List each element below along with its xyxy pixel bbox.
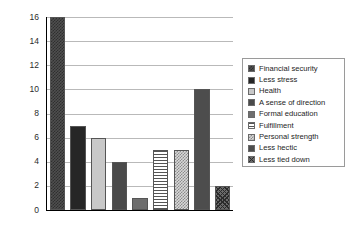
bar-fulfillment[interactable] xyxy=(153,150,169,210)
gridline xyxy=(47,65,233,66)
y-axis-tick-label: 10 xyxy=(30,85,39,94)
y-axis-tick-label: 4 xyxy=(34,157,39,166)
legend-item[interactable]: A sense of direction xyxy=(248,97,340,108)
legend-item-label: Less hectic xyxy=(259,144,297,152)
y-axis-tick-label: 0 xyxy=(34,206,39,215)
legend-item-label: A sense of direction xyxy=(259,99,325,107)
legend-swatch-icon xyxy=(248,134,255,141)
y-axis-tick-label: 14 xyxy=(30,37,39,46)
bar-chart: 0246810121416 Financial securityLess str… xyxy=(0,0,360,234)
y-axis-tick-label: 6 xyxy=(34,133,39,142)
legend-item[interactable]: Financial security xyxy=(248,63,340,74)
legend-item[interactable]: Less stress xyxy=(248,74,340,85)
legend-item[interactable]: Fulfillment xyxy=(248,120,340,131)
legend-item[interactable]: Health xyxy=(248,86,340,97)
legend-swatch-icon xyxy=(248,65,255,72)
legend-swatch-icon xyxy=(248,122,255,129)
legend-item-label: Fulfillment xyxy=(259,122,294,130)
bar-formal-education[interactable] xyxy=(132,198,148,210)
y-axis-tick-label: 2 xyxy=(34,181,39,190)
legend-item-label: Formal education xyxy=(259,110,318,118)
legend-item-label: Less stress xyxy=(259,76,297,84)
y-axis-tick-label: 8 xyxy=(34,109,39,118)
bar-less-tied-down[interactable] xyxy=(215,186,231,210)
legend-item[interactable]: Personal strength xyxy=(248,131,340,142)
y-axis-tick-label: 16 xyxy=(30,13,39,22)
legend-item-label: Health xyxy=(259,87,281,95)
legend-item[interactable]: Formal education xyxy=(248,109,340,120)
legend-swatch-icon xyxy=(248,99,255,106)
bar-a-sense-of-direction[interactable] xyxy=(112,162,128,210)
legend-item[interactable]: Less hectic xyxy=(248,143,340,154)
legend-item[interactable]: Less tied down xyxy=(248,154,340,165)
legend-item-label: Less tied down xyxy=(259,156,310,164)
gridline xyxy=(47,17,233,18)
legend-swatch-icon xyxy=(248,145,255,152)
bar-less-hectic[interactable] xyxy=(194,89,210,210)
bar-less-stress[interactable] xyxy=(70,126,86,210)
legend-swatch-icon xyxy=(248,111,255,118)
y-axis-tick-label: 12 xyxy=(30,61,39,70)
bar-financial-security[interactable] xyxy=(50,17,66,210)
legend-swatch-icon xyxy=(248,88,255,95)
y-axis-tick-labels: 0246810121416 xyxy=(0,0,44,234)
bar-health[interactable] xyxy=(91,138,107,210)
bar-personal-strength[interactable] xyxy=(174,150,190,210)
gridline xyxy=(47,41,233,42)
legend-item-label: Financial security xyxy=(259,65,318,73)
plot-area xyxy=(46,17,233,211)
legend-swatch-icon xyxy=(248,77,255,84)
legend-item-label: Personal strength xyxy=(259,133,319,141)
legend-swatch-icon xyxy=(248,156,255,163)
chart-legend: Financial securityLess stressHealthA sen… xyxy=(242,58,345,167)
